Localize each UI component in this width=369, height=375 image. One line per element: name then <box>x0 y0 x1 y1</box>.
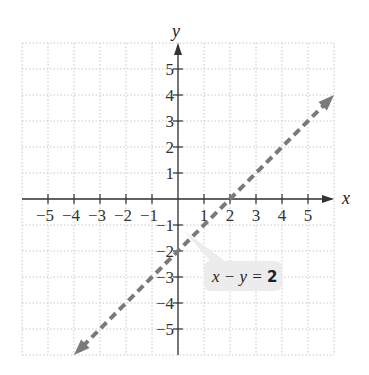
x-tick-label: 4 <box>278 206 287 225</box>
equation-lhs: x − y = <box>211 267 267 286</box>
y-tick-label: 3 <box>166 112 175 131</box>
x-tick-label: −5 <box>36 206 54 225</box>
x-tick-label: −4 <box>62 206 81 225</box>
x-axis-arrow-icon <box>322 195 334 203</box>
y-axis-label: y <box>170 21 180 41</box>
y-axis-arrow-icon <box>174 43 182 55</box>
equation-rhs: 2 <box>267 268 277 286</box>
coordinate-plane: −5−4−3−2−112345−5−4−3−2−112345 x − y = 2… <box>0 0 369 375</box>
x-tick-label: −2 <box>114 206 132 225</box>
y-tick-label: 4 <box>166 86 175 105</box>
y-tick-label: −4 <box>156 294 175 313</box>
y-tick-label: 1 <box>166 164 175 183</box>
equation-label: x − y = 2 <box>211 267 277 286</box>
x-tick-label: 3 <box>252 206 261 225</box>
y-tick-label: −2 <box>156 242 174 261</box>
y-tick-label: 2 <box>166 138 175 157</box>
x-tick-label: −3 <box>88 206 106 225</box>
callout-pointer <box>183 230 228 263</box>
y-tick-label: −1 <box>156 216 174 235</box>
equation-callout: x − y = 2 <box>183 230 282 291</box>
x-tick-label: 2 <box>226 206 235 225</box>
y-tick-label: −5 <box>156 320 174 339</box>
axes <box>22 43 334 355</box>
y-tick-label: 5 <box>166 60 175 79</box>
x-axis-label: x <box>341 188 350 208</box>
x-tick-label: 5 <box>304 206 313 225</box>
